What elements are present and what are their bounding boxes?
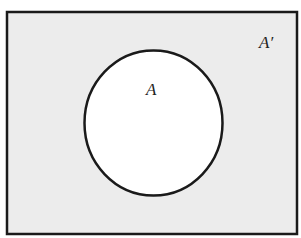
set-a-label: A: [145, 80, 157, 99]
set-a-circle: [85, 51, 223, 196]
venn-diagram: A A′: [0, 0, 301, 238]
complement-label: A′: [258, 33, 273, 52]
